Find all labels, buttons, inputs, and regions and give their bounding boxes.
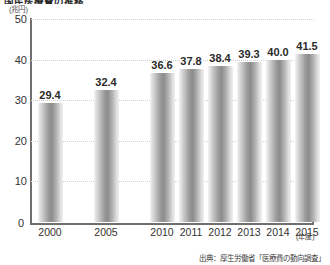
bar-2005	[94, 90, 119, 222]
bar-2015	[295, 54, 320, 222]
y-axis-tick-10: 10	[15, 176, 27, 187]
x-axis-line	[30, 223, 314, 225]
source-note: 出典：厚生労働省「医療費の動向調査」	[199, 252, 325, 263]
x-axis-tick-2005: 2005	[88, 227, 124, 238]
bar-series: 29.432.436.637.838.439.340.041.5	[31, 19, 314, 222]
bar-2011	[179, 69, 204, 222]
bar-value-2005: 32.4	[88, 77, 124, 88]
y-axis-tick-40: 40	[15, 54, 27, 65]
bar-2014	[266, 60, 291, 222]
plot-area: 29.432.436.637.838.439.340.041.5	[31, 19, 314, 222]
y-axis-zero-label: 0	[18, 218, 24, 229]
bar-value-2015: 41.5	[289, 41, 325, 52]
bar-2000	[38, 103, 63, 222]
y-axis-tick-30: 30	[15, 95, 27, 106]
bar-2012	[208, 66, 233, 222]
bar-2010	[150, 73, 175, 222]
y-axis-tick-20: 20	[15, 135, 27, 146]
bar-chart: 国民医療費の推移 (兆円) 1020304050 0 29.432.436.63…	[0, 0, 330, 265]
x-axis-unit-label: (年度)	[296, 231, 315, 241]
y-axis-tick-50: 50	[15, 14, 27, 25]
bar-value-2000: 29.4	[32, 90, 68, 101]
x-axis-tick-2000: 2000	[32, 227, 68, 238]
bar-2013	[237, 62, 262, 222]
